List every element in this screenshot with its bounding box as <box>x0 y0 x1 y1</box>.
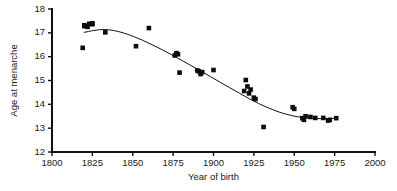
x-tick-label: 1800 <box>41 157 62 168</box>
fit-curve <box>84 30 336 119</box>
x-tick-label: 1900 <box>203 157 224 168</box>
y-tick-label: 18 <box>34 3 45 14</box>
data-point <box>90 21 95 26</box>
y-tick-label: 17 <box>34 26 45 37</box>
data-point <box>211 68 216 73</box>
data-points <box>80 21 338 129</box>
data-point <box>248 87 253 92</box>
data-point <box>103 30 108 35</box>
data-point <box>253 97 258 102</box>
data-point <box>177 70 182 75</box>
y-tick-label: 13 <box>34 122 45 133</box>
x-tick-label: 2000 <box>364 157 385 168</box>
data-point <box>313 116 318 121</box>
x-tick-label: 1925 <box>243 157 264 168</box>
x-tick-label: 1975 <box>324 157 345 168</box>
x-tick-label: 1850 <box>122 157 143 168</box>
x-tick-label: 1825 <box>82 157 103 168</box>
x-axis-title: Year of birth <box>188 171 239 182</box>
axis-ticks <box>48 9 375 156</box>
data-point <box>334 116 339 121</box>
y-tick-label: 15 <box>34 74 45 85</box>
data-point <box>134 44 139 49</box>
y-tick-label: 16 <box>34 50 45 61</box>
scatter-plot: 1213141516171818001825185018751900192519… <box>0 0 397 191</box>
chart-figure: 1213141516171818001825185018751900192519… <box>0 0 397 191</box>
data-point <box>176 52 181 57</box>
data-point <box>200 70 205 75</box>
data-point <box>80 46 85 51</box>
x-tick-label: 1875 <box>163 157 184 168</box>
x-tick-label: 1950 <box>284 157 305 168</box>
data-point <box>292 107 297 112</box>
data-point <box>244 78 249 83</box>
data-point <box>308 115 313 120</box>
y-axis-title: Age at menarche <box>8 44 19 116</box>
data-point <box>303 114 308 119</box>
axes <box>52 9 375 152</box>
data-point <box>242 89 247 94</box>
y-tick-label: 14 <box>34 98 45 109</box>
data-point <box>321 116 326 121</box>
data-point <box>261 125 266 130</box>
y-tick-label: 12 <box>34 146 45 157</box>
trend-curve <box>84 30 336 119</box>
data-point <box>327 118 332 123</box>
data-point <box>147 26 152 31</box>
